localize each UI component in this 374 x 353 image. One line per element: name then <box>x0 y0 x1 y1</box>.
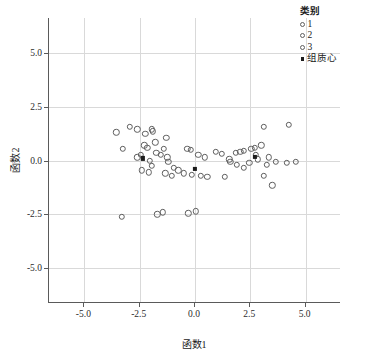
data-point <box>165 158 171 164</box>
data-point <box>145 169 151 175</box>
data-point <box>222 173 228 179</box>
data-point <box>144 144 150 150</box>
legend-item-label: 1 <box>308 19 313 31</box>
legend: 类别 123组质心 <box>300 6 337 65</box>
data-point <box>119 213 125 219</box>
data-point <box>149 163 155 169</box>
data-point <box>162 170 168 176</box>
data-point <box>264 162 270 168</box>
data-point <box>202 154 208 160</box>
legend-item-label: 3 <box>308 42 313 54</box>
x-tick <box>83 303 84 307</box>
y-tick <box>44 53 48 54</box>
legend-item: 3 <box>300 42 337 54</box>
centroid-marker <box>253 155 257 159</box>
legend-item: 1 <box>300 19 337 31</box>
x-tick <box>305 303 306 307</box>
data-point <box>120 145 126 151</box>
gridline-horizontal <box>49 107 340 108</box>
data-point <box>204 173 210 179</box>
legend-item: 组质心 <box>300 53 337 65</box>
legend-circle-icon <box>300 22 305 27</box>
legend-title: 类别 <box>300 6 337 18</box>
data-point <box>169 172 175 178</box>
data-point <box>142 130 148 136</box>
data-point <box>246 159 252 165</box>
data-point <box>284 159 290 165</box>
centroid-marker <box>141 156 145 160</box>
legend-circle-icon <box>300 45 305 50</box>
data-point <box>195 152 201 158</box>
data-point <box>139 167 145 173</box>
data-point <box>218 151 224 157</box>
data-point <box>188 171 194 177</box>
discriminant-scatter-plot: 函数1 函数2 类别 123组质心 -5.0-2.50.02.55.05.02.… <box>0 0 374 353</box>
x-tick-label: -2.5 <box>131 309 146 319</box>
gridline-horizontal <box>49 53 340 54</box>
y-tick-label: -2.5 <box>10 209 42 219</box>
centroid-marker <box>193 167 197 171</box>
y-tick <box>44 214 48 215</box>
data-point <box>193 208 199 214</box>
x-tick-label: 5.0 <box>299 309 311 319</box>
data-point <box>163 135 169 141</box>
y-tick-label: 5.0 <box>10 48 42 58</box>
data-point <box>185 210 191 216</box>
data-point <box>161 145 167 151</box>
data-point <box>260 172 266 178</box>
data-point <box>227 158 233 164</box>
y-tick <box>44 107 48 108</box>
y-tick <box>44 268 48 269</box>
data-point <box>240 165 246 171</box>
legend-square-icon <box>301 57 305 61</box>
data-point <box>113 129 119 135</box>
data-point <box>181 170 187 176</box>
data-point <box>269 182 275 188</box>
data-point <box>252 144 258 150</box>
data-point <box>152 139 158 145</box>
data-point <box>158 152 164 158</box>
y-tick-label: -5.0 <box>10 263 42 273</box>
data-point <box>286 122 292 128</box>
x-axis-title: 函数1 <box>182 336 207 351</box>
y-tick-label: 0.0 <box>10 156 42 166</box>
y-tick-label: 2.5 <box>10 102 42 112</box>
legend-item: 2 <box>300 30 337 42</box>
plot-area <box>48 18 340 303</box>
y-tick <box>44 161 48 162</box>
x-tick <box>139 303 140 307</box>
data-point <box>197 172 203 178</box>
legend-item-label: 2 <box>308 30 313 42</box>
data-point <box>240 148 246 154</box>
legend-entries: 123组质心 <box>300 19 337 65</box>
legend-item-label: 组质心 <box>307 53 337 65</box>
data-point <box>258 142 264 148</box>
data-point <box>292 158 298 164</box>
data-point <box>266 154 272 160</box>
data-point <box>260 124 266 130</box>
x-tick <box>249 303 250 307</box>
data-point <box>234 162 240 168</box>
x-tick-label: -5.0 <box>76 309 91 319</box>
x-tick <box>194 303 195 307</box>
data-point <box>127 124 133 130</box>
gridline-horizontal <box>49 268 340 269</box>
data-point <box>187 147 193 153</box>
data-point <box>150 128 156 134</box>
legend-circle-icon <box>300 33 305 38</box>
x-tick-label: 2.5 <box>243 309 255 319</box>
gridline-horizontal <box>49 214 340 215</box>
x-tick-label: 0.0 <box>188 309 200 319</box>
data-point <box>273 158 279 164</box>
